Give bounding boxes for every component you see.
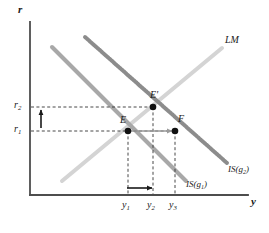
curve-layer	[52, 37, 227, 181]
tick-label-y1: y1	[122, 200, 130, 210]
equilibrium-point-ep	[150, 104, 157, 111]
equilibrium-point-e	[125, 128, 132, 135]
curve-label-lm: LM	[225, 35, 239, 45]
tick-label-y2: y2	[147, 200, 155, 210]
tick-label-r2: r2	[14, 100, 21, 110]
x-axis-label: y	[251, 196, 256, 207]
axis-lines	[30, 22, 248, 195]
curve-label-is-g2: IS(g2)	[228, 165, 249, 174]
lm-curve	[62, 48, 222, 181]
point-label-f: F	[178, 114, 184, 124]
point-label-e: E	[120, 115, 126, 125]
guide-lines	[31, 107, 175, 194]
is-lm-figure: r y r2 r1 y1 y2 y3 E E' F LM IS(g2) IS(g…	[0, 0, 269, 233]
tick-label-r1: r1	[14, 124, 21, 134]
y-axis-label: r	[18, 4, 22, 15]
tick-label-y3: y3	[169, 200, 177, 210]
equilibrium-point-f	[172, 128, 179, 135]
curve-label-is-g1: IS(g1)	[186, 180, 207, 189]
point-label-e-prime: E'	[150, 90, 158, 100]
